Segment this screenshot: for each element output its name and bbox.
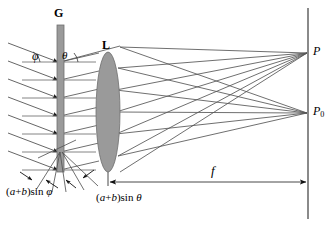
pd-arrow-theta-left xyxy=(66,180,76,188)
diffraction-grating xyxy=(57,25,64,172)
focus-ray-P xyxy=(118,53,307,68)
point-P0-subscript: 0 xyxy=(320,110,324,119)
point-P-label: P xyxy=(313,45,320,57)
path-difference-theta-label: (a+b)sin θ xyxy=(96,192,142,203)
diffracted-ray xyxy=(60,89,99,98)
pd-sin: )sin xyxy=(27,185,46,197)
converging-fan-P0 xyxy=(116,47,307,156)
angle-theta-label: θ xyxy=(62,50,67,61)
pd-angle-phi: φ xyxy=(46,185,52,197)
pd-line xyxy=(62,152,84,190)
diffracted-ray xyxy=(60,107,99,116)
optics-figure: G L φ θ P P0 f (a+b)sin φ (a+b)sin θ xyxy=(0,0,331,227)
grating-label: G xyxy=(54,7,63,19)
focus-ray-P0 xyxy=(118,68,307,113)
diffracted-ray xyxy=(60,71,99,80)
point-P0-label: P0 xyxy=(313,105,324,119)
angle-phi-label: φ xyxy=(32,50,39,62)
incident-ray xyxy=(8,115,58,134)
incident-ray xyxy=(8,97,58,116)
pd2-sin: )sin xyxy=(117,191,136,203)
focus-ray-P0 xyxy=(116,112,307,113)
focus-ray-P xyxy=(118,53,307,156)
pd-arrow-phi-left xyxy=(20,172,32,180)
lens-label: L xyxy=(102,39,110,51)
incident-ray xyxy=(8,79,58,98)
focus-ray-P xyxy=(120,47,307,53)
angle-arcs xyxy=(33,52,78,62)
path-difference-phi-label: (a+b)sin φ xyxy=(6,186,52,197)
incident-ray xyxy=(8,133,58,152)
focal-length-label: f xyxy=(211,164,215,177)
focus-ray-P0 xyxy=(116,113,307,134)
incident-ray xyxy=(8,61,58,80)
focus-ray-P0 xyxy=(120,47,307,113)
focus-ray-P0 xyxy=(118,113,307,156)
focal-length-dimension xyxy=(108,172,306,186)
converging-lens xyxy=(96,52,120,172)
diffracted-ray xyxy=(60,125,99,134)
pd2-angle-theta: θ xyxy=(136,191,141,203)
